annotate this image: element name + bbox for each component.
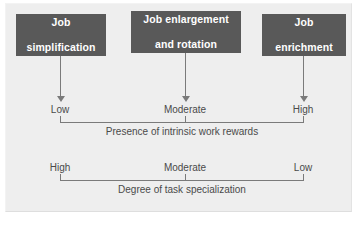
box-job-enlargement-line2: and rotation [143,38,229,51]
bracket-specialization-tick-right [303,174,304,181]
box-job-enrichment-line2: enrichment [275,41,333,54]
bracket-specialization-tick-left [60,174,61,181]
bracket-specialization-tick-middle [185,174,186,181]
bracket-rewards-caption: Presence of intrinsic work rewards [106,126,258,137]
bracket-rewards-bar [60,122,304,123]
arrow-down-icon-job-enrichment-head [300,96,308,102]
arrow-down-icon-job-simplification-stem [60,56,61,98]
box-job-simplification: Job simplification [16,14,106,56]
box-job-enrichment: Job enrichment [262,14,346,56]
scale-rewards-point-moderate: Moderate [164,104,206,115]
bracket-rewards-tick-right [303,116,304,123]
scale-specialization-point-moderate: Moderate [164,162,206,173]
bracket-specialization-caption: Degree of task specialization [118,184,246,195]
arrow-down-icon-job-enlargement-stem [185,53,186,98]
scale-rewards-point-high: High [293,104,314,115]
bracket-rewards-tick-left [60,116,61,123]
arrow-down-icon-job-enrichment-stem [303,56,304,98]
bracket-rewards-tick-middle [185,116,186,123]
scale-specialization-point-low: Low [294,162,312,173]
box-job-enlargement-and-rotation: Job enlargement and rotation [131,11,241,53]
box-job-simplification-line1: Job [26,16,95,29]
box-job-enlargement-line1: Job enlargement [143,13,229,26]
arrow-down-icon-job-enlargement-head [182,96,190,102]
job-design-diagram: Job simplification Job enlargement and r… [0,0,359,230]
bracket-specialization-bar [60,180,304,181]
box-job-enrichment-line1: Job [275,16,333,29]
arrow-down-icon-job-simplification-head [57,96,65,102]
box-job-simplification-line2: simplification [26,41,95,54]
scale-rewards-point-low: Low [51,104,69,115]
scale-specialization-point-high: High [50,162,71,173]
